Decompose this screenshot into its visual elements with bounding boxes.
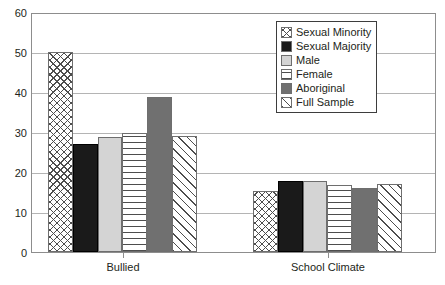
legend-swatch-icon xyxy=(281,69,292,80)
bar xyxy=(172,136,197,252)
y-tick-label: 20 xyxy=(3,168,27,179)
bar xyxy=(352,188,377,252)
bar xyxy=(122,133,147,252)
legend-swatch-icon xyxy=(281,55,292,66)
legend-swatch-icon xyxy=(281,97,292,108)
legend-item: Sexual Majority xyxy=(281,39,371,53)
legend-item: Sexual Minority xyxy=(281,25,371,39)
legend-item-label: Aboriginal xyxy=(296,83,345,94)
bar xyxy=(48,52,73,252)
y-tick-label: 60 xyxy=(3,8,27,19)
bar xyxy=(377,184,402,252)
y-tick-label: 0 xyxy=(3,248,27,259)
legend-item-label: Male xyxy=(296,55,320,66)
bar xyxy=(278,181,303,252)
legend-item-label: Full Sample xyxy=(296,97,354,108)
x-tick-mark xyxy=(328,253,329,258)
y-tick-label: 30 xyxy=(3,128,27,139)
legend-item-label: Female xyxy=(296,69,333,80)
legend-item: Aboriginal xyxy=(281,81,371,95)
legend-swatch-icon xyxy=(281,27,292,38)
x-tick-label-bullied: Bullied xyxy=(106,261,139,273)
x-tick-mark xyxy=(123,253,124,258)
legend-item: Full Sample xyxy=(281,95,371,109)
legend-swatch-icon xyxy=(281,41,292,52)
x-tick-label-school-climate: School Climate xyxy=(291,261,365,273)
legend-item-label: Sexual Minority xyxy=(296,27,371,38)
bar xyxy=(327,185,352,252)
legend-swatch-icon xyxy=(281,83,292,94)
y-tick-label: 10 xyxy=(3,208,27,219)
bar xyxy=(147,97,172,252)
legend-item: Female xyxy=(281,67,371,81)
y-tick-label: 50 xyxy=(3,48,27,59)
bar xyxy=(98,137,123,252)
y-tick-label: 40 xyxy=(3,88,27,99)
legend-item-label: Sexual Majority xyxy=(296,41,371,52)
bar-chart: 60 50 40 30 20 10 0 Bullied School Clima… xyxy=(0,0,445,285)
bar xyxy=(303,181,328,252)
legend: Sexual MinoritySexual MajorityMaleFemale… xyxy=(276,21,377,113)
y-axis: 60 50 40 30 20 10 0 xyxy=(0,13,27,253)
legend-item: Male xyxy=(281,53,371,67)
bar xyxy=(73,144,98,252)
bar xyxy=(253,191,278,252)
